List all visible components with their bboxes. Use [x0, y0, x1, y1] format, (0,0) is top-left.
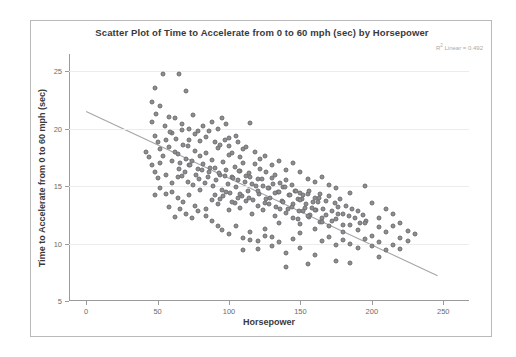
scatter-point [167, 204, 172, 209]
scatter-point [209, 157, 214, 162]
scatter-point [235, 140, 240, 145]
scatter-point [348, 191, 353, 196]
scatter-point [269, 243, 274, 248]
r-squared-value: Linear = 0.492 [443, 45, 483, 51]
scatter-point [192, 148, 197, 153]
scatter-point [312, 253, 317, 258]
scatter-point [262, 233, 267, 238]
scatter-point [312, 226, 317, 231]
scatter-point [298, 222, 303, 227]
scatter-point [199, 168, 204, 173]
scatter-point [227, 135, 232, 140]
scatter-point [319, 174, 324, 179]
scatter-point [277, 189, 282, 194]
scatter-point [164, 192, 169, 197]
scatter-point [255, 239, 260, 244]
scatter-point [227, 208, 232, 213]
scatter-point [291, 216, 296, 221]
scatter-point [298, 197, 303, 202]
scatter-point [174, 137, 179, 142]
scatter-point [229, 200, 234, 205]
scatter-point [227, 153, 232, 158]
scatter-point [185, 179, 190, 184]
scatter-point [362, 184, 367, 189]
scatter-point [249, 211, 254, 216]
scatter-point [369, 233, 374, 238]
scatter-point [212, 165, 217, 170]
scatter-point [289, 182, 294, 187]
scatter-point [242, 179, 247, 184]
y-axis-tick [65, 244, 69, 245]
scatter-point [329, 209, 334, 214]
scatter-point [248, 174, 253, 179]
y-axis-tick-label: 10 [54, 239, 62, 248]
scatter-point [312, 179, 317, 184]
scatter-point [334, 258, 339, 263]
scatter-point [377, 240, 382, 245]
scatter-point [412, 232, 417, 237]
scatter-point [147, 155, 152, 160]
scatter-point [212, 140, 217, 145]
scatter-point [175, 151, 180, 156]
r-squared-annotation: R2 Linear = 0.492 [436, 43, 483, 51]
scatter-point [237, 169, 242, 174]
scatter-point [212, 193, 217, 198]
scatter-point [228, 191, 233, 196]
scatter-point [149, 119, 154, 124]
scatter-point [197, 177, 202, 182]
scatter-point [217, 171, 222, 176]
y-axis-tick-label: 25 [54, 67, 62, 76]
scatter-point [288, 193, 293, 198]
scatter-point [218, 142, 223, 147]
scatter-point [304, 202, 309, 207]
scatter-point [261, 208, 266, 213]
scatter-point [177, 166, 182, 171]
scatter-point [164, 172, 169, 177]
scatter-point [201, 124, 206, 129]
y-axis-tick [65, 301, 69, 302]
scatter-point [284, 168, 289, 173]
scatter-point [405, 239, 410, 244]
scatter-point [205, 174, 210, 179]
scatter-point [241, 161, 246, 166]
scatter-point [335, 211, 340, 216]
scatter-point [241, 248, 246, 253]
x-axis-tick [300, 301, 301, 305]
scatter-point [305, 177, 310, 182]
scatter-point [369, 201, 374, 206]
scatter-point [208, 165, 213, 170]
scatter-point [268, 195, 273, 200]
scatter-point [204, 213, 209, 218]
scatter-point [144, 149, 149, 154]
gridline [69, 71, 469, 72]
scatter-point [391, 224, 396, 229]
scatter-point [262, 226, 267, 231]
scatter-point [198, 154, 203, 159]
y-axis-title: Time to Accelerate from 0 to 60 mph (sec… [35, 54, 49, 301]
scatter-point [175, 195, 180, 200]
scatter-point [355, 209, 360, 214]
x-axis-title: Horsepower [69, 317, 469, 327]
scatter-point [289, 204, 294, 209]
scatter-point [248, 238, 253, 243]
scatter-point [327, 234, 332, 239]
chart-title: Scatter Plot of Time to Accelerate from … [31, 27, 493, 38]
scatter-point [201, 162, 206, 167]
scatter-point [184, 156, 189, 161]
scatter-point [298, 246, 303, 251]
scatter-point [278, 207, 283, 212]
scatter-point [152, 133, 157, 138]
scatter-point [202, 180, 207, 185]
scatter-point [234, 224, 239, 229]
scatter-point [162, 124, 167, 129]
scatter-point [262, 154, 267, 159]
scatter-point [215, 224, 220, 229]
scatter-point [184, 211, 189, 216]
scatter-point [284, 264, 289, 269]
scatter-point [305, 262, 310, 267]
scatter-point [264, 170, 269, 175]
scatter-point [215, 202, 220, 207]
scatter-point [355, 246, 360, 251]
scatter-point [167, 145, 172, 150]
scatter-point [327, 182, 332, 187]
